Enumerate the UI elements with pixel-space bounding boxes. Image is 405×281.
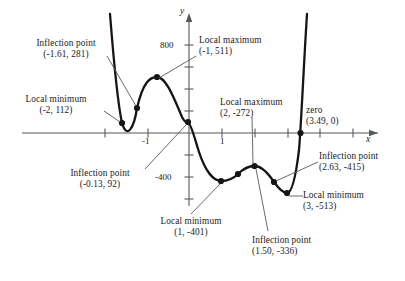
annotation-inflection-origin-coords: (-0.13, 92) xyxy=(51,179,149,190)
annotation-local-min-mid-title: Local minimum xyxy=(161,216,222,226)
annotation-inflection-mid: Inflection point (1.50, -336) xyxy=(252,235,352,258)
annotation-local-min-right-coords: (3, -513) xyxy=(303,201,399,212)
annotation-local-min-left-coords: (-2, 112) xyxy=(8,105,104,116)
annotation-inflection-right-title: Inflection point xyxy=(319,151,378,161)
annotation-inflection-origin: Inflection point (-0.13, 92) xyxy=(51,168,149,191)
annotation-local-max-right-title: Local maximum xyxy=(220,97,283,107)
annotation-local-min-right: Local minimum (3, -513) xyxy=(303,190,399,213)
annotation-local-min-mid-coords: (1, -401) xyxy=(143,227,239,238)
y-axis xyxy=(185,13,194,206)
point-inflection-origin xyxy=(185,119,191,125)
point-inflection-mid xyxy=(235,171,241,177)
annotation-inflection-mid-coords: (1.50, -336) xyxy=(252,246,352,257)
annotation-inflection-left-coords: (-1.61, 281) xyxy=(18,49,114,60)
annotation-local-max-left: Local maximum (-1, 511) xyxy=(199,35,299,58)
annotation-local-min-right-title: Local minimum xyxy=(303,190,364,200)
point-local-max-left xyxy=(154,74,160,80)
x-tick-1: 1 xyxy=(220,136,225,146)
x-tick-minus1: -1 xyxy=(142,136,150,146)
point-local-min-right xyxy=(284,190,290,196)
annotation-zero: zero (3.49, 0) xyxy=(306,105,376,128)
leader-lines xyxy=(104,56,318,231)
annotation-local-max-left-coords: (-1, 511) xyxy=(199,46,299,57)
point-local-min-mid xyxy=(218,178,224,184)
annotation-local-min-left: Local minimum (-2, 112) xyxy=(8,94,104,117)
annotation-local-max-right-coords: (2, -272) xyxy=(220,108,316,119)
annotation-local-min-mid: Local minimum (1, -401) xyxy=(143,216,239,239)
point-inflection-left xyxy=(134,105,140,111)
y-axis-label: y xyxy=(180,6,184,16)
point-local-min-left xyxy=(119,120,125,126)
annotation-inflection-left-title: Inflection point xyxy=(36,38,95,48)
annotation-inflection-mid-title: Inflection point xyxy=(252,235,311,245)
x-axis-label: x xyxy=(366,134,370,144)
annotation-zero-coords: (3.49, 0) xyxy=(306,116,376,127)
point-inflection-right xyxy=(271,179,277,185)
annotation-inflection-right-coords: (2.63, -415) xyxy=(319,162,405,173)
point-local-max-right xyxy=(251,163,257,169)
annotation-local-max-right: Local maximum (2, -272) xyxy=(220,97,316,120)
annotation-inflection-origin-title: Inflection point xyxy=(70,168,129,178)
annotation-local-max-left-title: Local maximum xyxy=(199,35,262,45)
point-zero xyxy=(297,130,303,136)
x-axis xyxy=(22,129,378,138)
function-graph-figure: y x 800 -400 -1 1 Inflection point (-1.6… xyxy=(0,0,405,281)
annotation-local-min-left-title: Local minimum xyxy=(26,94,87,104)
y-tick-minus400: -400 xyxy=(155,172,172,182)
annotation-inflection-right: Inflection point (2.63, -415) xyxy=(319,151,405,174)
y-tick-800: 800 xyxy=(160,40,174,50)
annotation-inflection-left: Inflection point (-1.61, 281) xyxy=(18,38,114,61)
annotation-zero-title: zero xyxy=(306,105,322,115)
